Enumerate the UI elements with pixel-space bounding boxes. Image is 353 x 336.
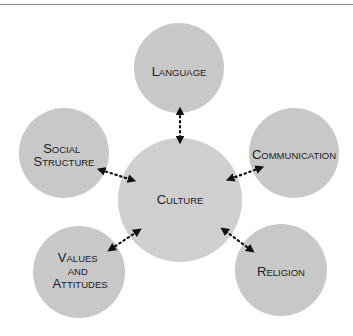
label-language: LANGUAGE: [152, 64, 207, 79]
culture-diagram: CULTURE LANGUAGE SOCIAL STRUCTURE COMMUN…: [0, 0, 353, 336]
label-culture: CULTURE: [157, 192, 204, 207]
label-communication: COMMUNICATION: [252, 147, 336, 162]
label-religion: RELIGION: [257, 264, 305, 279]
